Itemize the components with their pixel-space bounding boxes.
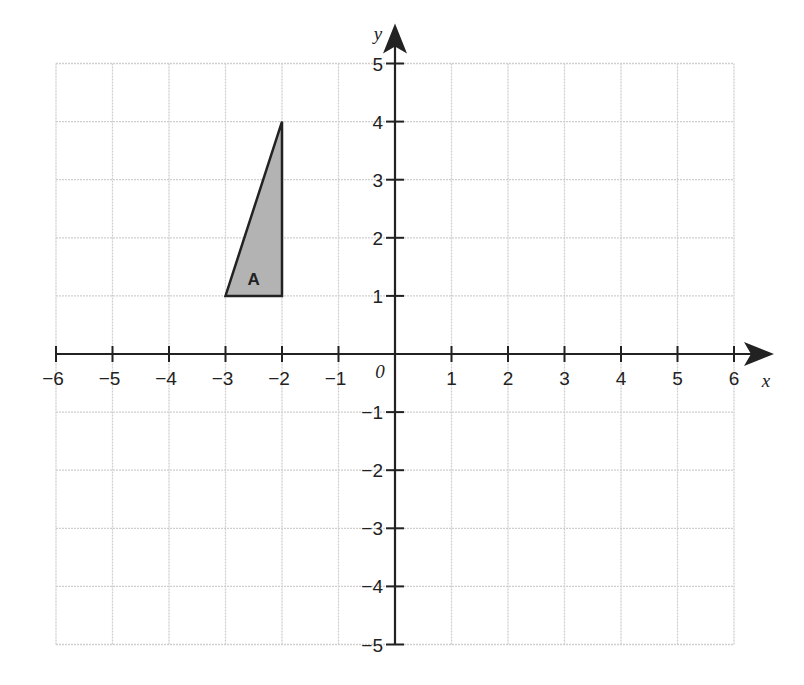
- y-tick-label: 2: [372, 228, 383, 249]
- y-tick-label: −5: [361, 635, 383, 656]
- y-tick-label: 1: [372, 286, 383, 307]
- y-tick-label: 3: [372, 170, 383, 191]
- x-tick-label: −3: [212, 368, 234, 389]
- y-tick-label: 5: [372, 54, 383, 75]
- x-axis-label: x: [761, 370, 771, 391]
- x-tick-label: −5: [99, 368, 121, 389]
- x-tick-label: −4: [155, 368, 177, 389]
- y-tick-label: −2: [361, 460, 383, 481]
- y-tick-label: −3: [361, 518, 383, 539]
- y-tick-label: −1: [361, 402, 383, 423]
- origin-label: 0: [375, 361, 385, 382]
- x-tick-label: 1: [446, 368, 457, 389]
- coordinate-plane: A−6−5−4−3−2−112345654321−1−2−3−4−50xy: [0, 0, 804, 685]
- x-tick-label: 5: [672, 368, 683, 389]
- x-tick-label: 6: [729, 368, 740, 389]
- y-tick-label: 4: [372, 112, 383, 133]
- x-tick-label: −2: [268, 368, 290, 389]
- x-tick-label: 2: [503, 368, 514, 389]
- x-tick-label: −6: [42, 368, 64, 389]
- y-tick-label: −4: [361, 576, 383, 597]
- x-tick-label: −1: [325, 368, 347, 389]
- x-tick-label: 3: [559, 368, 570, 389]
- shape-label-a: A: [248, 270, 260, 289]
- y-axis-label: y: [372, 23, 383, 44]
- x-tick-label: 4: [616, 368, 627, 389]
